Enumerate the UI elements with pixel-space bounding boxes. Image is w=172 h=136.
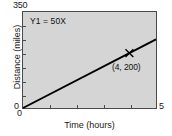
plot-area: Y1 = 50X (4, 200)	[22, 11, 157, 109]
data-point-label: (4, 200)	[112, 62, 141, 72]
x-axis-title: Time (hours)	[22, 120, 157, 130]
chart-figure: 350 Y1 = 50X (4, 200) 0 0 5	[0, 0, 172, 136]
x-axis-max-label: 5	[159, 101, 164, 111]
data-line-y1	[23, 39, 156, 108]
plot-svg	[23, 12, 156, 108]
data-point-marker	[125, 49, 133, 57]
y-axis-title: Distance (miles)	[12, 8, 22, 106]
x-axis-origin-label: 0	[17, 108, 22, 118]
